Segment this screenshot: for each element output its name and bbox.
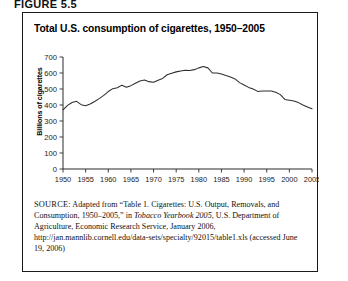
svg-text:400: 400 [44,101,57,110]
svg-text:1995: 1995 [259,175,275,184]
svg-text:2000: 2000 [281,175,297,184]
svg-text:2005: 2005 [304,175,319,184]
svg-text:1970: 1970 [145,175,161,184]
svg-text:300: 300 [44,117,57,126]
svg-text:1950: 1950 [55,175,71,184]
chart-title: Total U.S. consumption of cigarettes, 19… [34,22,265,34]
source-label: SOURCE: [34,200,71,209]
svg-text:1960: 1960 [100,175,116,184]
y-axis-title: Billions of cigarettes [35,50,44,154]
svg-text:0: 0 [53,165,57,174]
svg-text:600: 600 [44,69,57,78]
figure-box: Total U.S. consumption of cigarettes, 19… [22,12,318,272]
svg-text:1965: 1965 [123,175,139,184]
svg-text:1955: 1955 [77,175,93,184]
svg-text:1985: 1985 [213,175,229,184]
chart-plot-area: Billions of cigarettes 01002003004005006… [23,49,319,201]
svg-text:100: 100 [44,149,57,158]
source-note: SOURCE: Adapted from “Table 1. Cigarette… [34,199,308,254]
svg-text:1975: 1975 [168,175,184,184]
line-chart-svg: 0100200300400500600700 19501955196019651… [23,49,319,201]
y-axis-ticks: 0100200300400500600700 [44,53,63,174]
svg-text:500: 500 [44,85,57,94]
x-axis-ticks: 1950195519601965197019751980198519901995… [55,169,319,184]
consumption-line-series [63,67,312,110]
svg-text:200: 200 [44,133,57,142]
source-italic-title: Tobacco Yearbook 2005 [134,211,212,220]
svg-text:700: 700 [44,53,57,62]
svg-text:1990: 1990 [236,175,252,184]
figure-label: FIGURE 5.5 [14,0,77,10]
svg-text:1980: 1980 [191,175,207,184]
